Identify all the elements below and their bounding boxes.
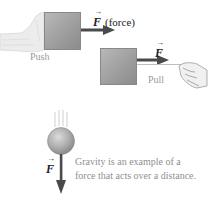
gravity-force-label: F (46, 159, 54, 177)
falling-ball-diagram (40, 110, 80, 200)
gravity-caption: Gravity is an example of a force that ac… (75, 155, 196, 183)
pushing-hand-icon (0, 12, 48, 52)
force-vector-symbol: F (46, 162, 54, 177)
push-force-label: F (force) (93, 12, 135, 30)
gravity-caption-line-1: Gravity is an example of a (75, 155, 196, 169)
pull-force-label: F (155, 43, 163, 61)
motion-lines (55, 110, 67, 127)
pull-caption: Pull (148, 74, 164, 85)
push-block (44, 12, 81, 50)
pull-block (100, 48, 137, 85)
force-vector-symbol: F (155, 46, 163, 61)
force-label-text: (force) (105, 16, 135, 28)
push-caption: Push (30, 51, 49, 62)
force-vector-symbol: F (93, 15, 101, 30)
gravity-caption-line-2: force that acts over a distance. (75, 169, 196, 183)
pulling-hand-icon (177, 60, 209, 90)
